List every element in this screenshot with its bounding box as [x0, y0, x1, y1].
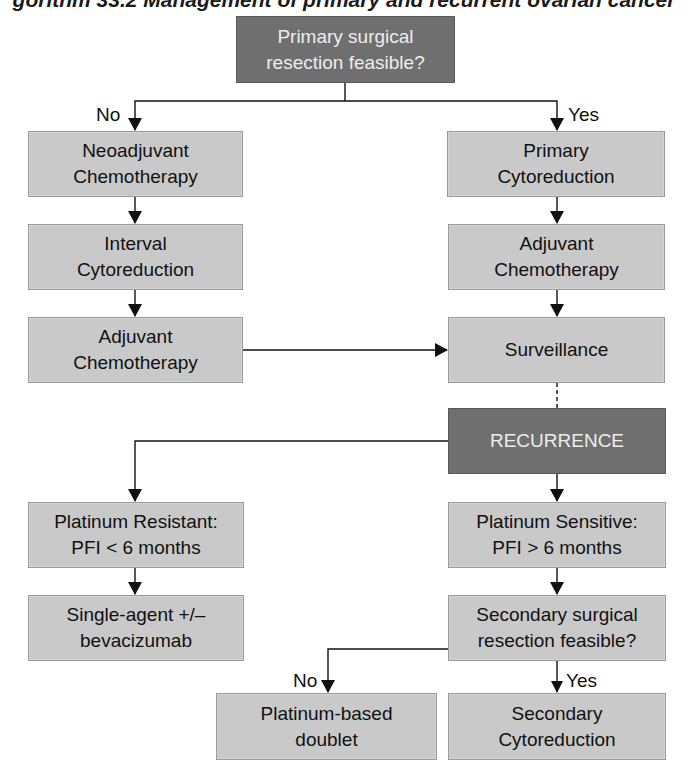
edge-label-no-secondary: No	[293, 670, 317, 692]
edge-label-yes-secondary: Yes	[566, 670, 597, 692]
recurrence-box: RECURRENCE	[448, 408, 666, 474]
primary-resection-decision: Primary surgical resection feasible?	[236, 16, 455, 83]
edge-label-yes: Yes	[568, 104, 599, 126]
platinum-resistant-box: Platinum Resistant: PFI < 6 months	[28, 502, 244, 568]
adjuvant-chemotherapy-right-box: Adjuvant Chemotherapy	[448, 224, 665, 290]
primary-cytoreduction-box: Primary Cytoreduction	[447, 131, 665, 197]
secondary-cytoreduction-box: Secondary Cytoreduction	[448, 693, 666, 760]
interval-cytoreduction-box: Interval Cytoreduction	[28, 224, 243, 290]
secondary-resection-box: Secondary surgical resection feasible?	[448, 595, 666, 661]
surveillance-box: Surveillance	[448, 317, 665, 383]
adjuvant-chemotherapy-left-box: Adjuvant Chemotherapy	[28, 317, 243, 383]
neoadjuvant-chemotherapy-box: Neoadjuvant Chemotherapy	[28, 131, 243, 197]
platinum-doublet-box: Platinum-based doublet	[216, 693, 437, 760]
platinum-sensitive-box: Platinum Sensitive: PFI > 6 months	[448, 502, 666, 568]
single-agent-box: Single-agent +/– bevacizumab	[28, 595, 244, 661]
edge-label-no: No	[96, 104, 120, 126]
